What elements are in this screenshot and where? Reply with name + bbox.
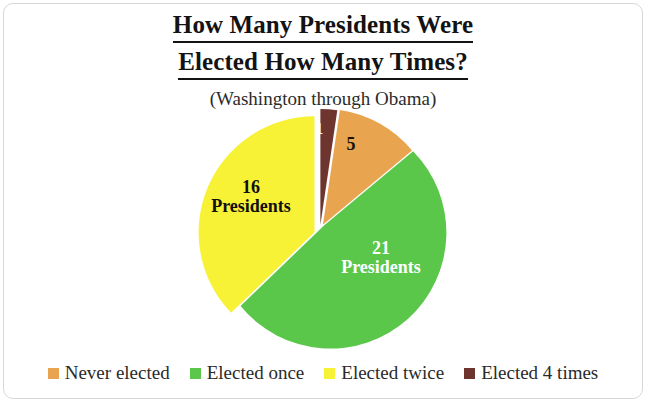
legend-swatch-never-elected bbox=[48, 368, 59, 379]
legend-label-elected-4-times: Elected 4 times bbox=[481, 362, 598, 384]
pie-chart: 1 5 16 Presidents 21 Presidents bbox=[0, 104, 646, 354]
legend-label-elected-once: Elected once bbox=[207, 362, 305, 384]
chart-page: How Many Presidents Were Elected How Man… bbox=[0, 0, 646, 402]
legend-item-elected-twice[interactable]: Elected twice bbox=[324, 362, 444, 384]
chart-legend: Never elected Elected once Elected twice… bbox=[0, 362, 646, 384]
legend-swatch-elected-twice bbox=[324, 368, 335, 379]
legend-label-elected-twice: Elected twice bbox=[341, 362, 444, 384]
legend-item-elected-4-times[interactable]: Elected 4 times bbox=[464, 362, 598, 384]
chart-title-line-1: How Many Presidents Were bbox=[173, 10, 473, 43]
chart-title-line-1-wrapper: How Many Presidents Were bbox=[0, 10, 646, 43]
pie-chart-svg bbox=[183, 104, 463, 354]
legend-swatch-elected-once bbox=[190, 368, 201, 379]
legend-item-elected-once[interactable]: Elected once bbox=[190, 362, 305, 384]
title-block: How Many Presidents Were Elected How Man… bbox=[0, 10, 646, 110]
legend-label-never-elected: Never elected bbox=[65, 362, 170, 384]
chart-title-line-2-wrapper: Elected How Many Times? bbox=[0, 43, 646, 80]
legend-swatch-elected-4-times bbox=[464, 368, 475, 379]
legend-item-never-elected[interactable]: Never elected bbox=[48, 362, 170, 384]
chart-title-line-2: Elected How Many Times? bbox=[178, 47, 468, 80]
